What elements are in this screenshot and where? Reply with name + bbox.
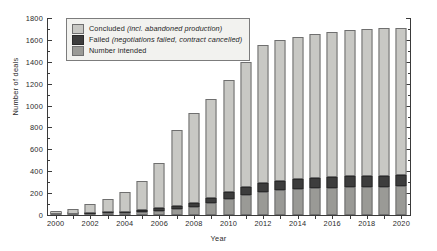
x-tick-2019 [384, 215, 385, 219]
y-tick-l-900 [48, 117, 50, 118]
bar-2010[interactable] [223, 80, 234, 215]
legend-swatch-intended [72, 46, 84, 56]
y-tick-l-600 [48, 149, 52, 150]
y-tick-r-1300 [408, 73, 410, 74]
bar-segment-failed-2010 [223, 192, 234, 199]
bar-2001[interactable] [67, 209, 78, 215]
bar-segment-failed-2016 [327, 177, 338, 188]
bar-2017[interactable] [344, 30, 355, 215]
bar-segment-concluded-2016 [327, 32, 338, 177]
y-tick-label-400: 400 [30, 167, 43, 176]
legend-label-failed: Failed (negotiations failed, contract ca… [89, 35, 242, 44]
bar-segment-failed-2006 [154, 208, 165, 210]
bar-2019[interactable] [379, 28, 390, 215]
bar-segment-intended-2013 [275, 190, 286, 215]
chart-legend: Concluded (incl. abandoned production)Fa… [66, 18, 250, 61]
bar-segment-failed-2013 [275, 181, 286, 190]
bar-segment-concluded-2010 [223, 80, 234, 191]
legend-item-intended[interactable]: Number intended [72, 45, 242, 56]
bar-2009[interactable] [206, 99, 217, 215]
x-tick-label-2006: 2006 [151, 219, 168, 228]
y-tick-l-1100 [48, 95, 50, 96]
bar-2006[interactable] [154, 163, 165, 215]
y-tick-l-1500 [48, 51, 50, 52]
bar-segment-intended-2020 [396, 186, 407, 215]
bar-2000[interactable] [50, 211, 61, 215]
x-tick-label-2000: 2000 [47, 219, 64, 228]
bar-segment-failed-2014 [292, 179, 303, 189]
y-tick-l-800 [48, 127, 52, 128]
bar-segment-concluded-2006 [154, 163, 165, 209]
bar-segment-concluded-2000 [50, 211, 61, 214]
bar-segment-intended-2014 [292, 189, 303, 215]
legend-item-concluded[interactable]: Concluded (incl. abandoned production) [72, 23, 242, 34]
legend-item-failed[interactable]: Failed (negotiations failed, contract ca… [72, 34, 242, 45]
x-tick-label-2018: 2018 [358, 219, 375, 228]
y-tick-label-600: 600 [30, 145, 43, 154]
bar-segment-failed-2009 [206, 198, 217, 203]
bar-2002[interactable] [85, 204, 96, 215]
bar-2016[interactable] [327, 32, 338, 215]
bar-segment-concluded-2008 [188, 113, 199, 203]
x-tick-label-2008: 2008 [185, 219, 202, 228]
bar-segment-intended-2017 [344, 187, 355, 215]
legend-swatch-concluded [72, 24, 84, 34]
bar-segment-concluded-2015 [309, 34, 320, 178]
bar-segment-concluded-2003 [102, 199, 113, 213]
bar-segment-intended-2015 [309, 188, 320, 215]
y-tick-r-1700 [408, 29, 410, 30]
bar-2005[interactable] [137, 181, 148, 215]
bar-segment-concluded-2020 [396, 28, 407, 175]
x-tick-2001 [73, 215, 74, 219]
x-tick-2003 [108, 215, 109, 219]
bar-segment-intended-2007 [171, 209, 182, 215]
bar-2020[interactable] [396, 28, 407, 215]
bar-2004[interactable] [119, 192, 130, 215]
y-tick-label-200: 200 [30, 189, 43, 198]
x-tick-label-2012: 2012 [254, 219, 271, 228]
bar-segment-concluded-2001 [67, 209, 78, 214]
y-tick-label-0: 0 [39, 211, 43, 220]
y-tick-l-0 [48, 215, 52, 216]
y-tick-label-1600: 1600 [26, 35, 43, 44]
x-axis-title: Year [0, 234, 437, 243]
y-tick-l-200 [48, 193, 52, 194]
y-tick-r-700 [408, 138, 410, 139]
y-tick-l-300 [48, 182, 50, 183]
y-tick-l-1000 [48, 106, 52, 107]
bar-2014[interactable] [292, 37, 303, 215]
x-tick-label-2002: 2002 [82, 219, 99, 228]
bar-segment-concluded-2002 [85, 204, 96, 214]
bar-2003[interactable] [102, 199, 113, 215]
bar-2015[interactable] [309, 34, 320, 215]
chart-figure: Number of deals Year 0200400600800100012… [0, 0, 437, 251]
x-tick-2013 [280, 215, 281, 219]
y-tick-l-1800 [48, 18, 52, 19]
y-tick-label-1200: 1200 [26, 79, 43, 88]
bar-2008[interactable] [188, 113, 199, 215]
bar-segment-failed-2020 [396, 175, 407, 186]
x-tick-2017 [350, 215, 351, 219]
bar-segment-concluded-2017 [344, 30, 355, 176]
bar-2007[interactable] [171, 130, 182, 215]
y-tick-l-700 [48, 138, 50, 139]
y-axis-right [410, 18, 411, 215]
bar-segment-intended-2005 [137, 212, 148, 215]
x-tick-label-2004: 2004 [116, 219, 133, 228]
y-tick-label-1000: 1000 [26, 101, 43, 110]
y-tick-label-1800: 1800 [26, 14, 43, 23]
bar-2011[interactable] [240, 62, 251, 215]
y-tick-l-100 [48, 204, 50, 205]
bar-segment-intended-2019 [379, 187, 390, 215]
y-tick-l-500 [48, 160, 50, 161]
bar-segment-intended-2012 [258, 192, 269, 215]
bar-2013[interactable] [275, 40, 286, 215]
bar-segment-concluded-2012 [258, 45, 269, 184]
bar-2012[interactable] [258, 45, 269, 216]
x-tick-2011 [246, 215, 247, 219]
bar-segment-intended-2016 [327, 188, 338, 215]
bar-2018[interactable] [361, 29, 372, 215]
bar-segment-concluded-2005 [137, 181, 148, 210]
y-tick-r-1500 [408, 51, 410, 52]
bar-segment-failed-2018 [361, 176, 372, 187]
